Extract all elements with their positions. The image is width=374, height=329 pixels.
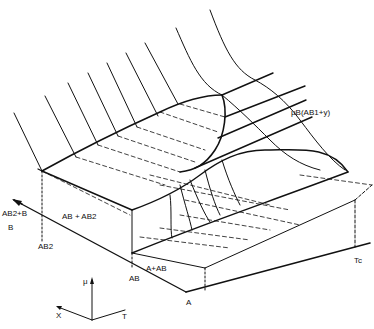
region-ab-ab2-label: AB + AB2: [62, 213, 96, 221]
point-ab-label: AB: [129, 275, 140, 283]
phase-diagram-drawing: [0, 0, 374, 329]
axis-b-label: B: [8, 224, 13, 232]
point-ab2-label: AB2: [38, 243, 53, 251]
isotherm-curves: [14, 10, 345, 171]
region-a-ab-label: A+AB: [146, 265, 167, 273]
front-ridge: [132, 150, 348, 210]
mu-b-curve-label: μB(AB1+y): [291, 109, 330, 117]
region-ab2-b-label: AB2+B: [2, 210, 27, 218]
dome-boundary: [180, 95, 225, 172]
point-tc-label: Tc: [354, 257, 362, 265]
phase-diagram: μB(AB1+y) AB2+B AB + AB2 A+AB B AB2 AB A…: [0, 0, 374, 329]
lower-ridge: [132, 172, 348, 253]
t-axis-edge: [186, 243, 370, 292]
axes-indicator: [56, 277, 125, 320]
point-a-label: A: [186, 299, 191, 307]
axis-x-label: X: [56, 312, 61, 320]
axis-t-label: T: [122, 313, 127, 321]
axis-mu-label: μ: [83, 278, 88, 286]
ridge-boundary: [42, 95, 222, 171]
